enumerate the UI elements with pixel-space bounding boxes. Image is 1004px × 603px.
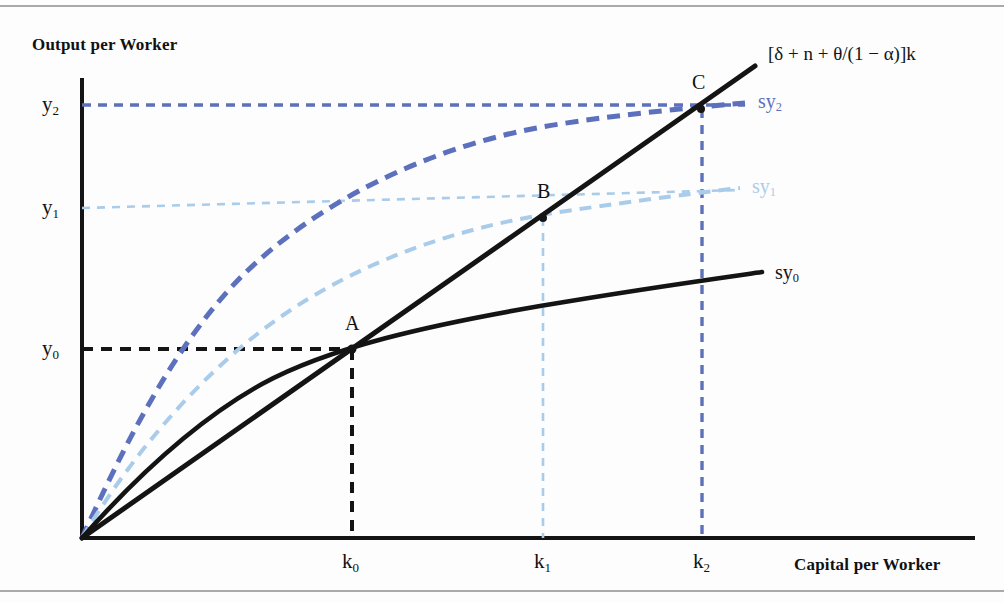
point-b-marker bbox=[539, 214, 547, 222]
x-axis-title: Capital per Worker bbox=[794, 556, 941, 573]
point-label-b: B bbox=[537, 181, 550, 201]
y-tick-label-y0: y0 bbox=[42, 338, 59, 361]
x-tick-k2-base: k bbox=[693, 549, 704, 573]
curve-label-sy2-sub: 2 bbox=[776, 100, 782, 114]
curve-label-sy0-sub: 0 bbox=[793, 271, 799, 285]
x-tick-k1-base: k bbox=[534, 549, 545, 573]
y-tick-y0-sub: 0 bbox=[53, 347, 60, 362]
y-tick-label-y1: y1 bbox=[42, 197, 59, 220]
curve-sy2 bbox=[82, 103, 745, 538]
line-break-even-investment bbox=[82, 66, 755, 538]
y-tick-y0-base: y bbox=[42, 336, 53, 360]
x-tick-k0-base: k bbox=[342, 549, 353, 573]
y-axis-title: Output per Worker bbox=[32, 36, 177, 53]
x-tick-k0-sub: 0 bbox=[353, 560, 360, 575]
curve-label-sy0: sy0 bbox=[775, 262, 799, 285]
point-a-marker bbox=[348, 345, 357, 354]
x-tick-label-k0: k0 bbox=[342, 551, 359, 574]
x-tick-label-k2: k2 bbox=[693, 551, 710, 574]
curve-label-sy1-base: sy bbox=[752, 175, 770, 197]
point-c-marker bbox=[697, 105, 705, 113]
break-even-equation-label: [δ + n + θ/(1 − α)]k bbox=[768, 44, 916, 63]
point-label-c: C bbox=[692, 72, 705, 92]
y-tick-y1-base: y bbox=[42, 195, 53, 219]
curve-sy0 bbox=[82, 272, 762, 538]
curve-label-sy2-base: sy bbox=[758, 90, 776, 112]
curve-label-sy1-sub: 1 bbox=[770, 185, 776, 199]
x-tick-k1-sub: 1 bbox=[545, 560, 552, 575]
curve-label-sy2: sy2 bbox=[758, 91, 782, 114]
curve-label-sy0-base: sy bbox=[775, 261, 793, 283]
y-tick-y1-sub: 1 bbox=[53, 206, 60, 221]
point-label-a: A bbox=[345, 313, 359, 333]
solow-growth-plot bbox=[0, 0, 1004, 603]
y-tick-y2-sub: 2 bbox=[53, 103, 60, 118]
y-tick-label-y2: y2 bbox=[42, 94, 59, 117]
figure-canvas: Output per Worker Capital per Worker y2 … bbox=[0, 0, 1004, 603]
curve-sy1 bbox=[82, 188, 740, 538]
y-tick-y2-base: y bbox=[42, 92, 53, 116]
x-tick-k2-sub: 2 bbox=[704, 560, 711, 575]
curve-label-sy1: sy1 bbox=[752, 176, 776, 199]
x-tick-label-k1: k1 bbox=[534, 551, 551, 574]
